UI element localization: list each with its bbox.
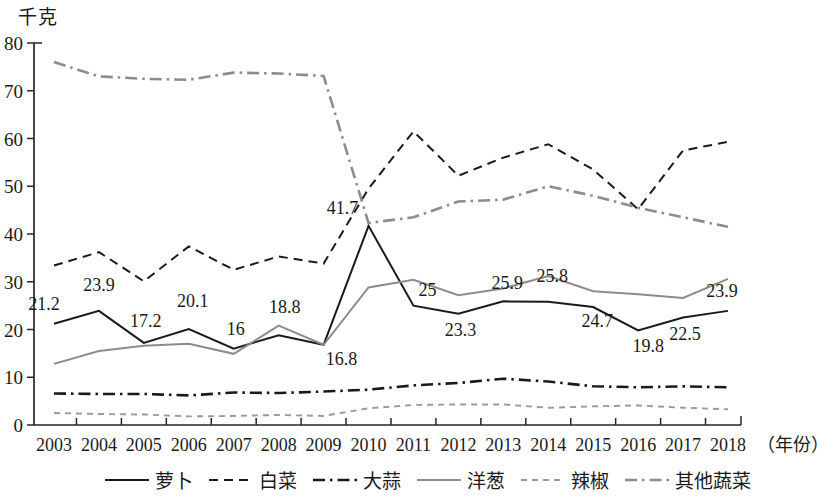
x-tick-label: 2009 — [306, 435, 342, 455]
y-tick-label: 50 — [4, 176, 23, 197]
series-lines — [54, 62, 728, 416]
data-label: 21.2 — [28, 294, 60, 314]
x-tick-label: 2004 — [81, 435, 117, 455]
data-label: 19.8 — [632, 336, 664, 356]
data-label: 20.1 — [177, 291, 209, 311]
data-labels: 21.223.917.220.11618.816.841.72523.325.9… — [28, 198, 738, 369]
data-label: 22.5 — [669, 324, 701, 344]
y-tick-label: 70 — [4, 81, 23, 102]
data-label: 41.7 — [327, 198, 359, 218]
x-tick-label: 2014 — [530, 435, 566, 455]
x-axis-name-label: （年份） — [757, 435, 829, 455]
x-tick-label: 2008 — [261, 435, 297, 455]
x-tick-label: 2006 — [171, 435, 207, 455]
x-axis-labels: 2003200420052006200720082009201020112012… — [36, 435, 746, 455]
series-line-辣椒 — [54, 404, 728, 416]
data-label: 18.8 — [269, 297, 301, 317]
x-tick-label: 2016 — [620, 435, 656, 455]
x-tick-label: 2017 — [665, 435, 701, 455]
y-tick-label: 30 — [4, 272, 23, 293]
x-tick-label: 2007 — [216, 435, 252, 455]
y-tick-label: 10 — [4, 367, 23, 388]
data-label: 25.9 — [492, 273, 524, 293]
x-axis-ticks — [76, 416, 741, 425]
legend-label-白菜[interactable]: 白菜 — [259, 471, 297, 492]
data-label: 16.8 — [326, 349, 358, 369]
data-label: 23.9 — [706, 281, 738, 301]
legend-label-大蒜[interactable]: 大蒜 — [363, 471, 401, 492]
data-label: 23.9 — [83, 275, 115, 295]
x-tick-label: 2005 — [126, 435, 162, 455]
data-label: 16 — [227, 319, 245, 339]
legend-label-洋葱[interactable]: 洋葱 — [467, 471, 505, 492]
chart-canvas: 01020304050607080 21.223.917.220.11618.8… — [0, 0, 832, 503]
x-tick-label: 2013 — [485, 435, 521, 455]
series-line-大蒜 — [54, 379, 728, 396]
x-tick-label: 2012 — [440, 435, 476, 455]
legend-label-其他蔬菜[interactable]: 其他蔬菜 — [675, 471, 751, 492]
data-label: 17.2 — [130, 311, 162, 331]
data-label: 25 — [418, 280, 436, 300]
y-tick-label: 0 — [14, 415, 24, 436]
series-line-其他蔬菜 — [54, 62, 728, 227]
legend-label-萝卜[interactable]: 萝卜 — [155, 471, 193, 492]
y-tick-label: 20 — [4, 320, 23, 341]
data-label: 23.3 — [445, 320, 477, 340]
chart-legend: 萝卜白菜大蒜洋葱辣椒其他蔬菜 — [105, 471, 751, 492]
x-tick-label: 2018 — [710, 435, 746, 455]
series-line-白菜 — [54, 131, 728, 281]
x-tick-label: 2010 — [351, 435, 387, 455]
x-tick-label: 2011 — [396, 435, 431, 455]
y-tick-label: 60 — [4, 129, 23, 150]
data-label: 24.7 — [581, 311, 613, 331]
legend-label-辣椒[interactable]: 辣椒 — [571, 471, 609, 492]
y-tick-label: 80 — [4, 33, 23, 54]
data-label: 25.8 — [537, 266, 569, 286]
x-tick-label: 2003 — [36, 435, 72, 455]
y-tick-label: 40 — [4, 224, 23, 245]
x-tick-label: 2015 — [575, 435, 611, 455]
y-axis-ticks: 01020304050607080 — [4, 33, 42, 436]
vegetable-consumption-line-chart: 千克 01020304050607080 21.223.917.220.1161… — [0, 0, 832, 503]
